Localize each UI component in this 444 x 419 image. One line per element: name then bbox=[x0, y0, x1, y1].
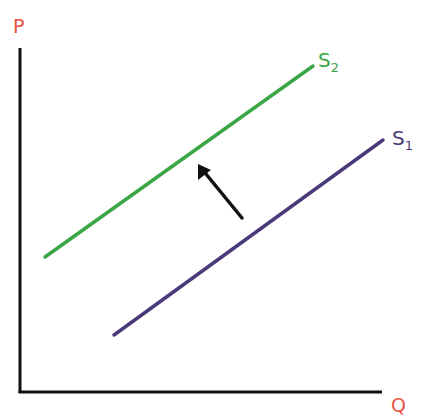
s2-label: S2 bbox=[318, 48, 339, 75]
supply-curve-s1 bbox=[114, 140, 383, 335]
s1-label-subscript: 1 bbox=[405, 138, 413, 153]
s2-label-name: S bbox=[318, 48, 331, 72]
s1-label-name: S bbox=[392, 126, 405, 150]
supply-curve-s2 bbox=[45, 66, 313, 257]
s1-label: S1 bbox=[392, 126, 413, 153]
shift-arrow-icon bbox=[198, 164, 242, 218]
s2-label-subscript: 2 bbox=[331, 60, 339, 75]
y-axis-label: P bbox=[13, 15, 24, 37]
supply-shift-diagram bbox=[0, 0, 444, 419]
x-axis-label: Q bbox=[391, 394, 406, 416]
